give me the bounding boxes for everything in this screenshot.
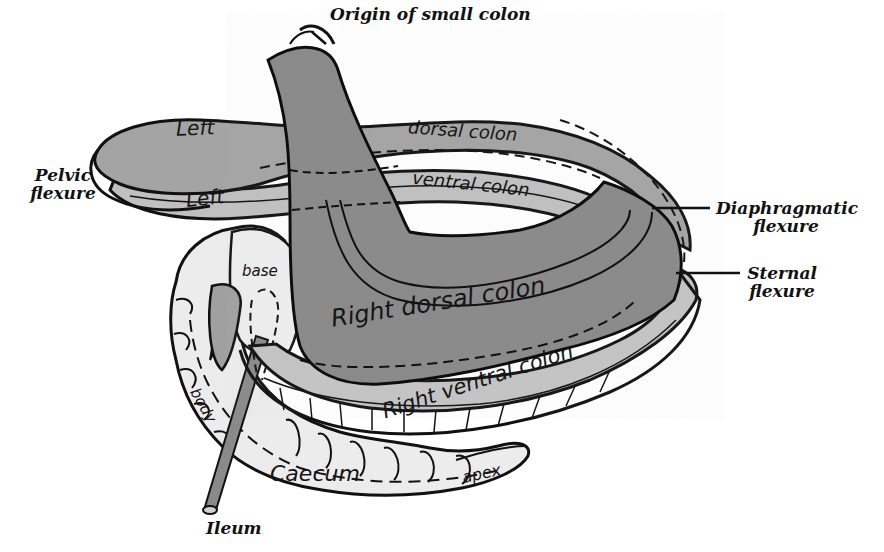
label-pelvic-flexure-line2: flexure	[30, 185, 96, 203]
label-caecum: Caecum	[270, 462, 360, 485]
label-left-dorsal: Left	[176, 117, 215, 139]
right-dorsal-colon	[268, 26, 681, 384]
label-origin-small-colon: Origin of small colon	[330, 6, 531, 24]
large-intestine-diagram: Origin of small colon Pelvic flexure Dia…	[0, 0, 884, 552]
label-ileum: Ileum	[206, 520, 262, 538]
label-sternal-flexure-line2: flexure	[742, 283, 822, 301]
label-sternal-flexure: Sternal flexure	[742, 265, 822, 301]
label-left-ventral: Left	[185, 186, 225, 211]
label-base: base	[242, 264, 278, 280]
label-diaphragmatic-flexure: Diaphragmatic flexure	[716, 200, 856, 236]
label-diaphragmatic-flexure-line2: flexure	[716, 218, 856, 236]
label-pelvic-flexure: Pelvic flexure	[30, 167, 96, 203]
